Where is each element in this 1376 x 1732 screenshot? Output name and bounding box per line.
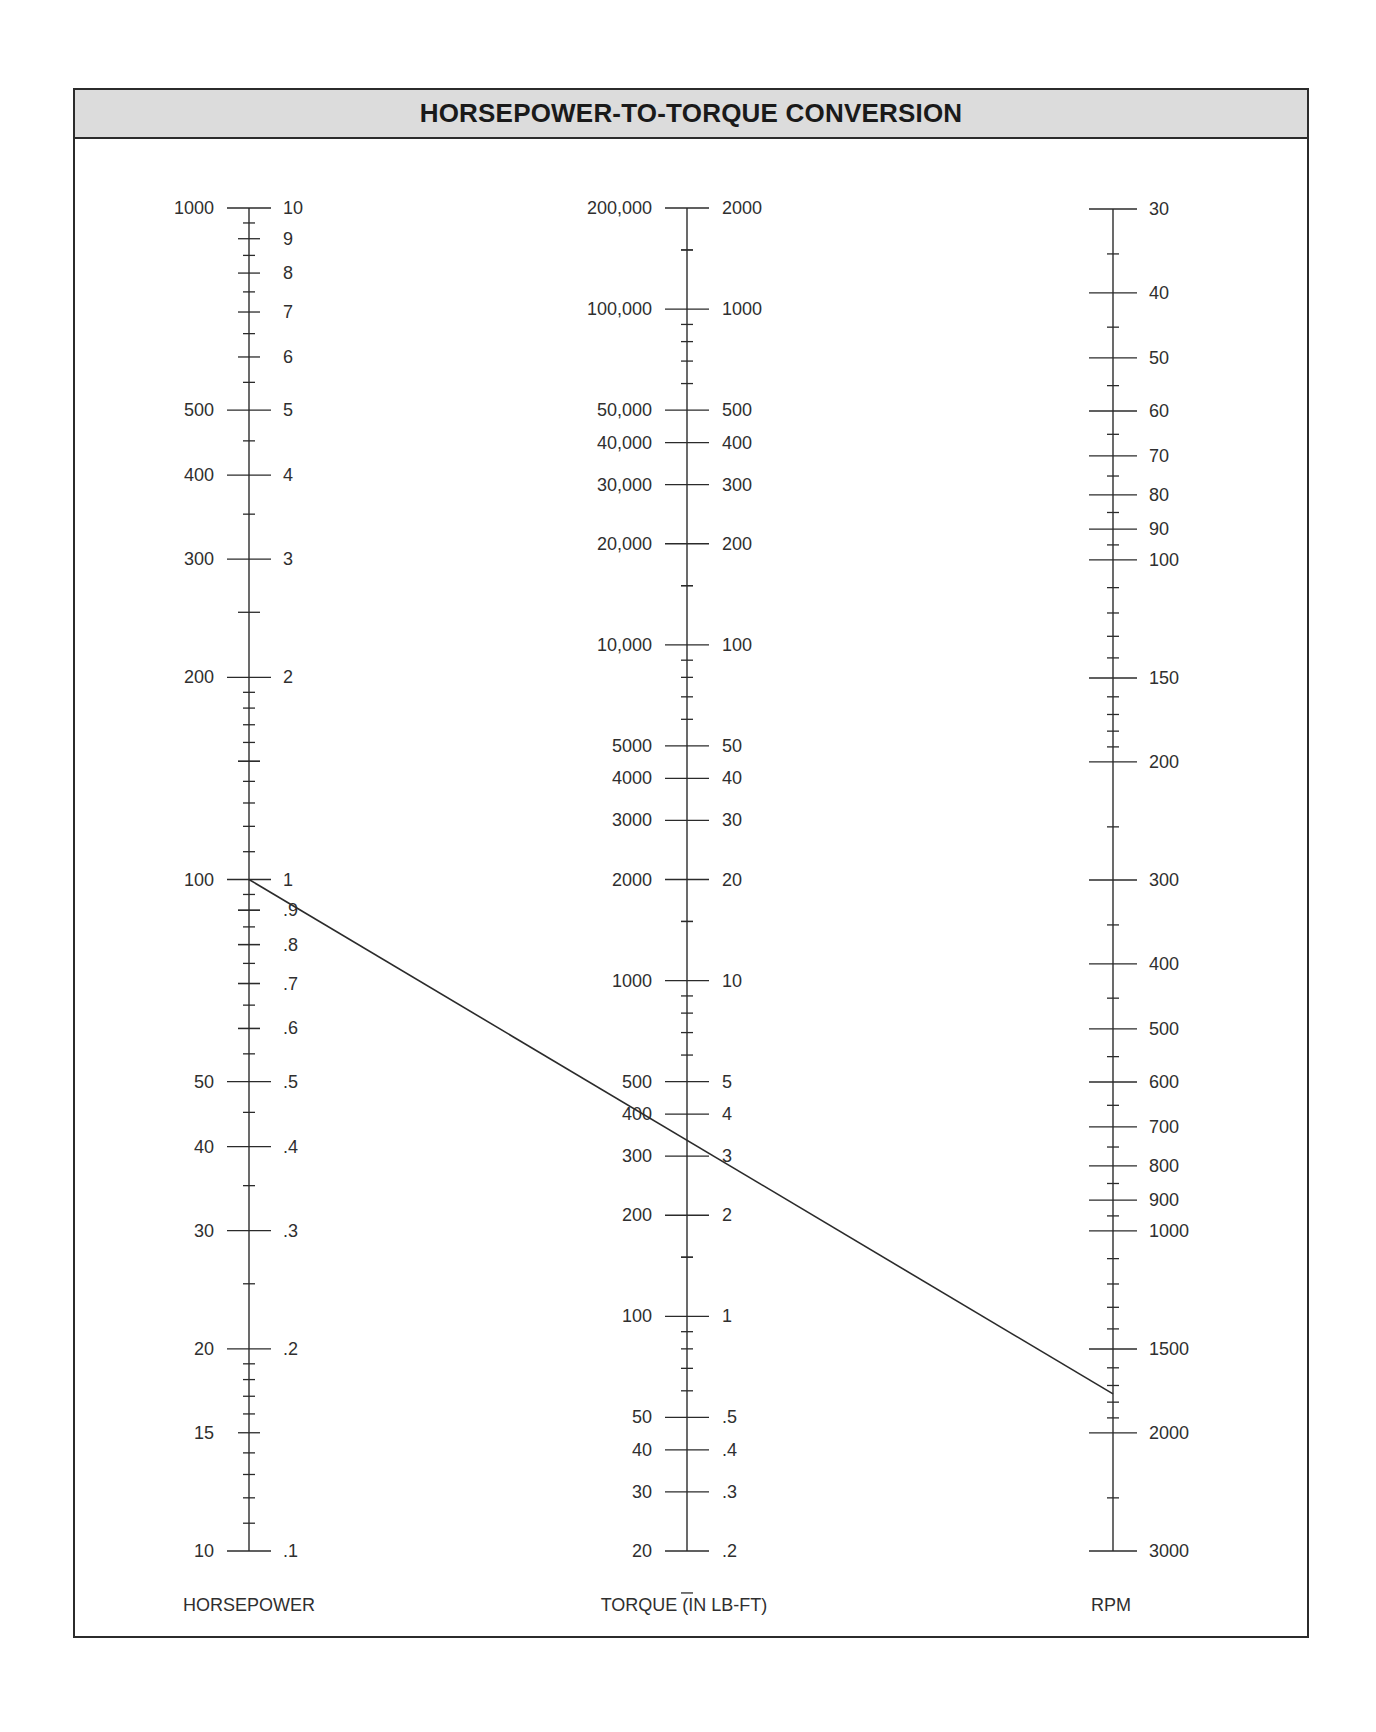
rpm-label: 40 xyxy=(1149,283,1169,303)
torque-right-label: 3 xyxy=(722,1146,732,1166)
rpm-label: 50 xyxy=(1149,348,1169,368)
hp-left-label: 10 xyxy=(194,1541,214,1561)
torque-left-label: 1000 xyxy=(612,971,652,991)
torque-right-label: 400 xyxy=(722,433,752,453)
torque-left-label: 100 xyxy=(622,1306,652,1326)
torque-right-label: .3 xyxy=(722,1482,737,1502)
rpm-label: 900 xyxy=(1149,1190,1179,1210)
rpm-label: 800 xyxy=(1149,1156,1179,1176)
hp-right-label: 3 xyxy=(283,549,293,569)
hp-right-label: 5 xyxy=(283,400,293,420)
torque-right-label: 4 xyxy=(722,1104,732,1124)
torque-left-label: 200 xyxy=(622,1205,652,1225)
torque-left-label: 5000 xyxy=(612,736,652,756)
hp-right-label: .5 xyxy=(283,1072,298,1092)
hp-right-label: 1 xyxy=(283,870,293,890)
hp-right-label: .3 xyxy=(283,1221,298,1241)
hp-right-label: .8 xyxy=(283,935,298,955)
torque-right-label: 5 xyxy=(722,1072,732,1092)
hp-right-label: .7 xyxy=(283,974,298,994)
hp-right-label: 4 xyxy=(283,465,293,485)
rpm-label: 90 xyxy=(1149,519,1169,539)
torque-right-label: .4 xyxy=(722,1440,737,1460)
torque-left-label: 400 xyxy=(622,1104,652,1124)
hp-right-label: 10 xyxy=(283,198,303,218)
hp-right-label: 9 xyxy=(283,229,293,249)
rpm-label: 2000 xyxy=(1149,1423,1189,1443)
torque-scale: 200,000100,00050,00040,00030,00020,00010… xyxy=(587,198,762,1727)
torque-left-label: 20 xyxy=(632,1541,652,1561)
hp-right-label: .6 xyxy=(283,1018,298,1038)
rpm-axis-title: RPM xyxy=(1091,1595,1131,1615)
torque-left-label: 3000 xyxy=(612,810,652,830)
torque-left-label: 30,000 xyxy=(597,475,652,495)
horsepower-scale: 1000500400300200100504030201510109876543… xyxy=(174,198,303,1561)
hp-left-label: 50 xyxy=(194,1072,214,1092)
torque-right-label: 40 xyxy=(722,768,742,788)
torque-left-label: 10,000 xyxy=(597,635,652,655)
torque-right-label: 50 xyxy=(722,736,742,756)
hp-left-label: 1000 xyxy=(174,198,214,218)
torque-right-label: 1 xyxy=(722,1306,732,1326)
rpm-label: 200 xyxy=(1149,752,1179,772)
torque-left-label: 500 xyxy=(622,1072,652,1092)
torque-right-label: 300 xyxy=(722,475,752,495)
torque-right-label: 30 xyxy=(722,810,742,830)
rpm-label: 100 xyxy=(1149,550,1179,570)
torque-left-label: 2000 xyxy=(612,870,652,890)
hp-left-label: 300 xyxy=(184,549,214,569)
hp-left-label: 40 xyxy=(194,1137,214,1157)
hp-left-label: 20 xyxy=(194,1339,214,1359)
hp-right-label: .9 xyxy=(283,900,298,920)
torque-right-label: .2 xyxy=(722,1541,737,1561)
hp-right-label: .2 xyxy=(283,1339,298,1359)
rpm-label: 1000 xyxy=(1149,1221,1189,1241)
hp-left-label: 500 xyxy=(184,400,214,420)
rpm-label: 3000 xyxy=(1149,1541,1189,1561)
hp-right-label: 7 xyxy=(283,302,293,322)
rpm-label: 300 xyxy=(1149,870,1179,890)
torque-left-label: 50,000 xyxy=(597,400,652,420)
torque-right-label: 1000 xyxy=(722,299,762,319)
rpm-label: 150 xyxy=(1149,668,1179,688)
torque-left-label: 40 xyxy=(632,1440,652,1460)
torque-right-label: 100 xyxy=(722,635,752,655)
rpm-label: 1500 xyxy=(1149,1339,1189,1359)
hp-left-label: 30 xyxy=(194,1221,214,1241)
rpm-label: 700 xyxy=(1149,1117,1179,1137)
hp-right-label: .4 xyxy=(283,1137,298,1157)
hp-left-label: 15 xyxy=(194,1423,214,1443)
hp-right-label: 8 xyxy=(283,263,293,283)
horsepower-axis-title: HORSEPOWER xyxy=(183,1595,315,1615)
torque-right-label: 500 xyxy=(722,400,752,420)
torque-left-label: 20,000 xyxy=(597,534,652,554)
hp-right-label: 2 xyxy=(283,667,293,687)
rpm-label: 60 xyxy=(1149,401,1169,421)
rpm-label: 400 xyxy=(1149,954,1179,974)
torque-left-label: 50 xyxy=(632,1407,652,1427)
torque-axis-title: TORQUE (IN LB-FT) xyxy=(601,1595,768,1615)
torque-right-label: 2 xyxy=(722,1205,732,1225)
torque-right-label: 200 xyxy=(722,534,752,554)
torque-left-label: 30 xyxy=(632,1482,652,1502)
torque-right-label: 2000 xyxy=(722,198,762,218)
torque-left-label: 40,000 xyxy=(597,433,652,453)
rpm-label: 70 xyxy=(1149,446,1169,466)
rpm-label: 600 xyxy=(1149,1072,1179,1092)
rpm-label: 30 xyxy=(1149,199,1169,219)
rpm-label: 80 xyxy=(1149,485,1169,505)
hp-left-label: 100 xyxy=(184,870,214,890)
hp-right-label: 6 xyxy=(283,347,293,367)
hp-left-label: 200 xyxy=(184,667,214,687)
hp-left-label: 400 xyxy=(184,465,214,485)
rpm-label: 500 xyxy=(1149,1019,1179,1039)
torque-right-label: 20 xyxy=(722,870,742,890)
torque-left-label: 100,000 xyxy=(587,299,652,319)
hp-right-label: .1 xyxy=(283,1541,298,1561)
torque-right-label: 10 xyxy=(722,971,742,991)
rpm-scale: 3040506070809010015020030040050060070080… xyxy=(1089,199,1189,1561)
torque-left-label: 4000 xyxy=(612,768,652,788)
torque-right-label: .5 xyxy=(722,1407,737,1427)
torque-left-label: 200,000 xyxy=(587,198,652,218)
nomogram: 1000500400300200100504030201510109876543… xyxy=(0,0,1376,1732)
